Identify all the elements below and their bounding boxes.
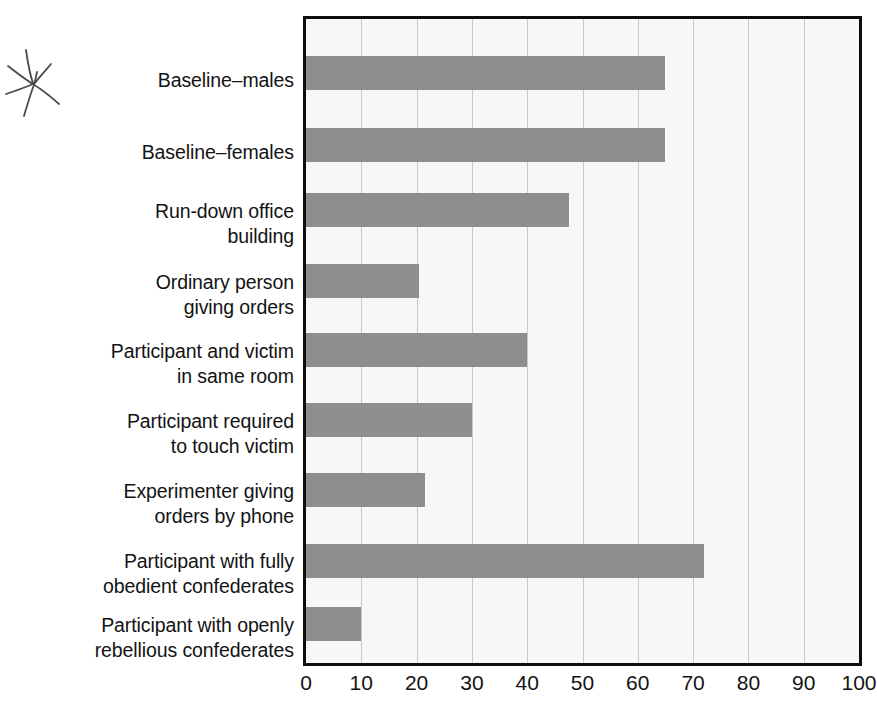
bar: [306, 333, 527, 367]
category-label-column: Baseline–males Baseline–females Run-down…: [60, 16, 294, 666]
category-label: Participant required to touch victim: [60, 409, 294, 459]
category-label-line: Participant with fully: [60, 549, 294, 574]
bar: [306, 607, 361, 641]
category-label-line: Baseline–females: [60, 140, 294, 165]
category-label-line: Experimenter giving: [60, 479, 294, 504]
x-tick-label: 80: [737, 670, 760, 696]
bar: [306, 473, 425, 507]
category-label: Run-down office building: [60, 199, 294, 249]
x-tick-label: 70: [681, 670, 704, 696]
x-tick-label: 40: [516, 670, 539, 696]
category-label-line: orders by phone: [60, 504, 294, 529]
category-label: Participant and victim in same room: [60, 339, 294, 389]
category-label: Participant with fully obedient confeder…: [60, 549, 294, 599]
category-label-line: Ordinary person: [60, 270, 294, 295]
category-label-line: obedient confederates: [60, 574, 294, 599]
category-label: Experimenter giving orders by phone: [60, 479, 294, 529]
x-tick-label: 10: [350, 670, 373, 696]
category-label: Baseline–males: [60, 68, 294, 93]
category-label: Participant with openly rebellious confe…: [60, 613, 294, 663]
bar: [306, 128, 665, 162]
category-label-line: giving orders: [60, 295, 294, 320]
x-tick-label: 20: [405, 670, 428, 696]
x-tick-label: 100: [841, 670, 876, 696]
category-label-line: in same room: [60, 364, 294, 389]
bar: [306, 403, 472, 437]
category-label-line: Baseline–males: [60, 68, 294, 93]
x-tick-label: 60: [626, 670, 649, 696]
category-label-line: Participant and victim: [60, 339, 294, 364]
plot-area: [303, 16, 862, 666]
bar-series: [306, 19, 859, 663]
bar: [306, 544, 704, 578]
category-label-line: building: [60, 224, 294, 249]
category-label-line: to touch victim: [60, 434, 294, 459]
category-label: Baseline–females: [60, 140, 294, 165]
bar: [306, 264, 419, 298]
x-axis: 0102030405060708090100: [303, 668, 862, 708]
x-tick-label: 50: [571, 670, 594, 696]
bar: [306, 193, 569, 227]
bar: [306, 56, 665, 90]
category-label-line: Participant required: [60, 409, 294, 434]
category-label-line: rebellious confederates: [60, 638, 294, 663]
category-label-line: Participant with openly: [60, 613, 294, 638]
category-label-line: Run-down office: [60, 199, 294, 224]
x-tick-label: 0: [300, 670, 312, 696]
bar-chart: Baseline–males Baseline–females Run-down…: [0, 0, 877, 724]
x-tick-label: 90: [792, 670, 815, 696]
category-label: Ordinary person giving orders: [60, 270, 294, 320]
x-tick-label: 30: [460, 670, 483, 696]
